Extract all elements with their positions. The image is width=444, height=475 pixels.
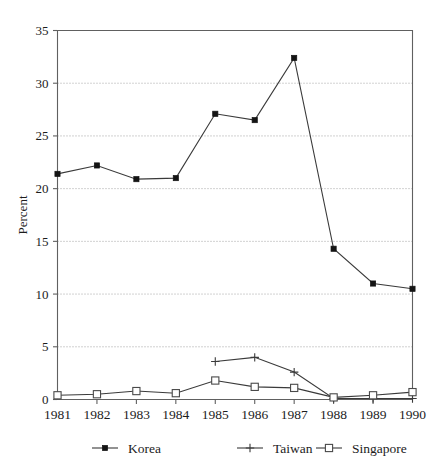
data-point-korea-1989 — [370, 281, 375, 286]
x-tick-label-1984: 1984 — [162, 407, 189, 422]
y-tick-label-5: 5 — [42, 339, 49, 354]
y-tick-label-30: 30 — [36, 76, 49, 91]
legend-label-korea: Korea — [128, 441, 161, 456]
data-point-singapore-1986 — [251, 383, 258, 390]
data-point-korea-1982 — [94, 163, 99, 168]
data-point-singapore-1990 — [409, 389, 416, 396]
x-tick-label-1981: 1981 — [44, 407, 71, 422]
legend-label-singapore: Singapore — [352, 441, 407, 456]
y-axis-title: Percent — [15, 195, 30, 234]
chart-canvas: 05101520253035 1981198219831984198519861… — [0, 0, 444, 475]
legend-label-taiwan: Taiwan — [273, 441, 313, 456]
data-point-singapore-1987 — [291, 384, 298, 391]
chart-background — [0, 0, 444, 475]
data-point-korea-1981 — [55, 171, 60, 176]
data-point-korea-1986 — [252, 118, 257, 123]
data-point-singapore-1989 — [369, 392, 376, 399]
line-chart-figure: 05101520253035 1981198219831984198519861… — [0, 0, 444, 475]
x-tick-label-1989: 1989 — [360, 407, 387, 422]
x-tick-label-1985: 1985 — [202, 407, 229, 422]
data-point-korea-1987 — [292, 55, 297, 60]
x-tick-label-1982: 1982 — [83, 407, 110, 422]
data-point-korea-1983 — [134, 177, 139, 182]
data-point-korea-1984 — [173, 176, 178, 181]
y-tick-label-20: 20 — [36, 181, 49, 196]
x-tick-label-1987: 1987 — [281, 407, 308, 422]
data-point-singapore-1982 — [93, 391, 100, 398]
x-tick-label-1986: 1986 — [241, 407, 268, 422]
data-point-singapore-1981 — [54, 392, 61, 399]
x-tick-label-1983: 1983 — [123, 407, 150, 422]
data-point-singapore-1985 — [212, 377, 219, 384]
data-point-korea-1988 — [331, 246, 336, 251]
legend-marker-korea — [102, 445, 107, 450]
x-tick-label-1990: 1990 — [399, 407, 426, 422]
x-tick-label-1988: 1988 — [320, 407, 347, 422]
y-tick-label-25: 25 — [36, 128, 49, 143]
legend-marker-singapore — [325, 444, 332, 451]
data-point-singapore-1983 — [133, 387, 140, 394]
y-tick-label-0: 0 — [42, 392, 49, 407]
data-point-korea-1990 — [410, 286, 415, 291]
data-point-singapore-1988 — [330, 394, 337, 401]
y-tick-label-10: 10 — [36, 287, 49, 302]
y-tick-label-15: 15 — [36, 234, 49, 249]
data-point-singapore-1984 — [172, 390, 179, 397]
data-point-korea-1985 — [213, 111, 218, 116]
y-tick-label-35: 35 — [36, 23, 49, 38]
